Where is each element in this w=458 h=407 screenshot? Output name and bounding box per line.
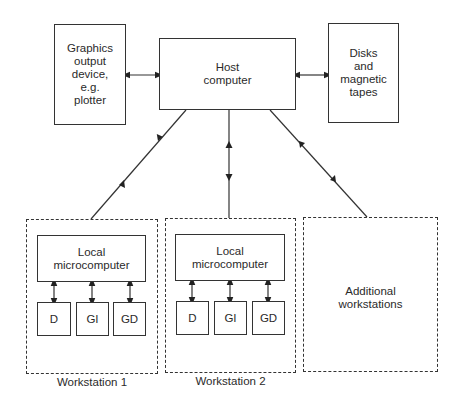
ws1-device-d: D: [37, 302, 71, 336]
ws1-device-gi: GI: [76, 302, 109, 336]
host-computer-box: Host computer: [159, 38, 296, 110]
host-ws1-line: [91, 110, 186, 219]
graphics-output-device-box: Graphics output device, e.g. plotter: [54, 24, 126, 125]
host-additional-line: [270, 110, 367, 217]
local-microcomputer-1: Local microcomputer: [37, 235, 146, 282]
storage-box: Disks and magnetic tapes: [328, 23, 399, 123]
additional-workstations-label: Additional workstations: [303, 285, 438, 311]
ws2-device-gi: GI: [214, 301, 247, 335]
local-microcomputer-2: Local microcomputer: [175, 234, 285, 281]
workstation-2-caption: Workstation 2: [165, 375, 296, 387]
workstation-1-caption: Workstation 1: [26, 376, 158, 388]
ws2-device-d: D: [176, 301, 209, 335]
ws2-device-gd: GD: [252, 301, 285, 335]
ws1-device-gd: GD: [113, 302, 146, 336]
